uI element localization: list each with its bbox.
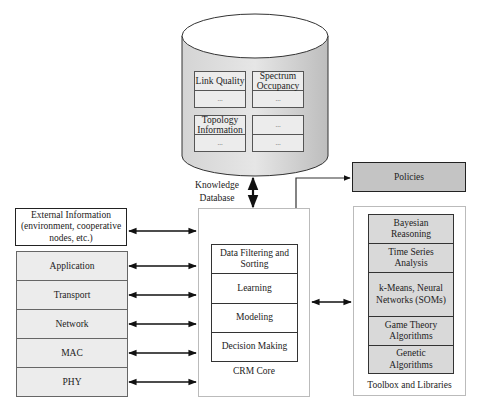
crm-core-caption: CRM Core — [198, 366, 310, 376]
db-cell-other: ... ... — [252, 115, 304, 152]
db-cell-spectrum-occupancy: Spectrum Occupancy ... — [252, 71, 304, 108]
db-cell-header: Topology Information — [195, 116, 245, 135]
db-cell-link-quality: Link Quality ... — [194, 71, 246, 108]
label-line: Knowledge — [186, 180, 248, 191]
knowledge-database-label: Knowledge Database — [186, 180, 248, 204]
db-cell-body: ... — [253, 135, 303, 153]
db-cell-header: Link Quality — [195, 72, 245, 91]
db-cell-header: ... — [253, 116, 303, 135]
layer-phy: PHY — [17, 368, 127, 396]
external-info-line: nodes, etc.) — [49, 233, 93, 245]
db-cell-header: Spectrum Occupancy — [253, 72, 303, 91]
db-cell-body: ... — [195, 91, 245, 109]
toolbox-caption: Toolbox and Libraries — [353, 380, 466, 390]
tool-kmeans-neural-networks: k-Means, Neural Networks (SOMs) — [369, 273, 453, 317]
policies-label: Policies — [394, 172, 424, 182]
protocol-layer-stack: Application Transport Network MAC PHY — [16, 251, 128, 397]
external-information-box: External Information (environment, coope… — [15, 208, 127, 246]
tool-game-theory: Game Theory Algorithms — [369, 317, 453, 346]
label-line: Database — [186, 193, 248, 204]
crm-modeling: Modeling — [212, 304, 297, 333]
external-info-line: External Information — [31, 210, 111, 222]
crm-core-stack: Data Filtering and Sorting Learning Mode… — [211, 244, 298, 362]
db-cell-body: ... — [253, 91, 303, 109]
policies-box: Policies — [352, 162, 466, 192]
db-cell-body: ... — [195, 135, 245, 153]
tool-bayesian-reasoning: Bayesian Reasoning — [369, 215, 453, 244]
layer-mac: MAC — [17, 339, 127, 368]
crm-learning: Learning — [212, 274, 297, 303]
db-cell-topology-information: Topology Information ... — [194, 115, 246, 152]
layer-network: Network — [17, 310, 127, 339]
crm-decision-making: Decision Making — [212, 333, 297, 361]
crm-data-filtering: Data Filtering and Sorting — [212, 245, 297, 274]
external-info-line: (environment, cooperative — [21, 221, 121, 233]
tool-genetic-algorithms: Genetic Algorithms — [369, 346, 453, 373]
toolbox-stack: Bayesian Reasoning Time Series Analysis … — [368, 214, 454, 374]
tool-time-series-analysis: Time Series Analysis — [369, 244, 453, 273]
layer-transport: Transport — [17, 281, 127, 310]
layer-application: Application — [17, 252, 127, 281]
